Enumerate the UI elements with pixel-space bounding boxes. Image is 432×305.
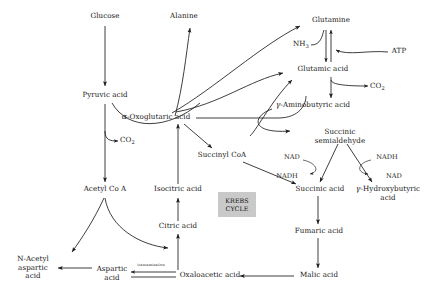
node-aspartic-acid: Aspartic acid [91,265,133,282]
node-co2-pyruvate-label: CO [120,135,131,144]
node-gamma-hydroxybutyric-acid-label: -Hydroxybutyric [361,184,421,193]
edge-gaba-to-succinic-semialdehyde [258,109,290,131]
edge-semialdehyde-to-succinic-acid [320,144,338,182]
node-n-acetyl-aspartic-acid-line3: acid [10,272,56,281]
edge-pyruvic-acid-to-co2 [105,131,118,141]
node-fumaric-acid: Fumaric acid [288,227,350,236]
edge-nad-to-nadh-left [303,160,316,174]
node-nadh-left: NADH [272,173,302,181]
node-nad-right-label: NAD [386,172,402,180]
node-gamma-hydroxybutyric-acid-line2: acid [348,194,428,203]
node-nad-left: NAD [280,154,304,162]
node-succinic-semialdehyde-line2: semialdehyde [306,137,374,146]
edge-acetyl-coa-to-n-acetyl-aspartic [72,198,104,252]
node-gamma-aminobutyric-acid-label: -Aminobutyric acid [281,100,351,109]
node-n-acetyl-aspartic-acid: N-Acetyl aspartic acid [10,255,56,281]
node-co2-pyruvate: CO2 [120,136,144,147]
node-citric-acid: Citric acid [152,222,204,231]
node-nadh-right-label: NADH [376,153,398,161]
node-co2-pyruvate-sub: 2 [131,139,134,145]
node-nad-left-label: NAD [284,153,300,161]
edge-atp-to-reaction [336,50,388,53]
node-gamma-hydroxybutyric-acid: γ-Hydroxybutyric acid [348,185,428,202]
node-gamma-aminobutyric-acid: γ-Aminobutyric acid [265,101,361,110]
krebs-cycle-line2: CYCLE [226,205,249,212]
node-atp-label: ATP [392,46,406,55]
node-oxaloacetic-acid-label: Oxaloacetic acid [180,270,241,279]
node-pyruvic-acid: Pyruvic acid [76,91,134,100]
node-nadh-left-label: NADH [276,172,298,180]
node-glucose-label: Glucose [90,11,119,20]
node-alanine-label: Alanine [170,11,198,20]
node-succinic-acid: Succinic acid [289,185,351,194]
node-glutamic-acid: Glutamic acid [289,65,357,74]
node-atp: ATP [386,47,412,56]
node-nh3: NH3 [288,40,314,51]
node-glucose: Glucose [83,12,127,21]
node-co2-glutamate-label: CO [370,81,381,90]
krebs-cycle-line1: KREBS [225,197,248,204]
krebs-cycle-box: KREBS CYCLE [218,192,256,217]
node-succinyl-coa-label: Succinyl CoA [198,150,247,159]
label-transamination-text: transamination [137,263,165,267]
node-malic-acid-label: Malic acid [300,270,338,279]
node-glutamine: Glutamine [303,16,359,25]
node-isocitric-acid-label: Isocitric acid [154,184,202,193]
node-alpha-oxoglutaric-acid-label: -Oxoglutaric acid [127,112,190,121]
node-acetyl-coa-label: Acetyl Co A [84,184,127,193]
node-nad-right: NAD [382,173,406,181]
node-co2-glutamate-sub: 2 [381,85,384,91]
node-nh3-label: NH [293,39,306,48]
node-aspartic-acid-line2: acid [91,274,133,283]
node-glutamine-label: Glutamine [312,15,350,24]
label-transamination: transamination [129,263,173,267]
node-succinic-acid-label: Succinic acid [296,184,345,193]
node-succinyl-coa: Succinyl CoA [190,151,254,160]
node-pyruvic-acid-label: Pyruvic acid [82,90,127,99]
edge-alpha-oxoglutaric-to-succinyl-coa [184,124,212,148]
edge-glutamic-acid-to-co2 [331,80,368,86]
node-oxaloacetic-acid: Oxaloacetic acid [177,271,243,280]
node-malic-acid: Malic acid [292,271,346,280]
node-citric-acid-label: Citric acid [159,221,197,230]
node-co2-glutamate: CO2 [370,82,394,93]
node-glutamic-acid-label: Glutamic acid [298,64,349,73]
node-acetyl-coa: Acetyl Co A [76,185,134,194]
node-nh3-sub: 3 [306,43,309,49]
node-alanine: Alanine [163,12,205,21]
pathway-diagram: Glucose Pyruvic acid CO2 Acetyl Co A N-A… [0,0,432,305]
edge-semialdehyde-to-gamma-hydroxybutyric [347,144,372,182]
node-alpha-oxoglutaric-acid: α-Oxoglutaric acid [114,113,198,122]
node-succinic-semialdehyde: Succinic semialdehyde [306,128,374,145]
node-isocitric-acid: Isocitric acid [148,185,208,194]
node-fumaric-acid-label: Fumaric acid [295,226,343,235]
node-nadh-right: NADH [372,154,402,162]
